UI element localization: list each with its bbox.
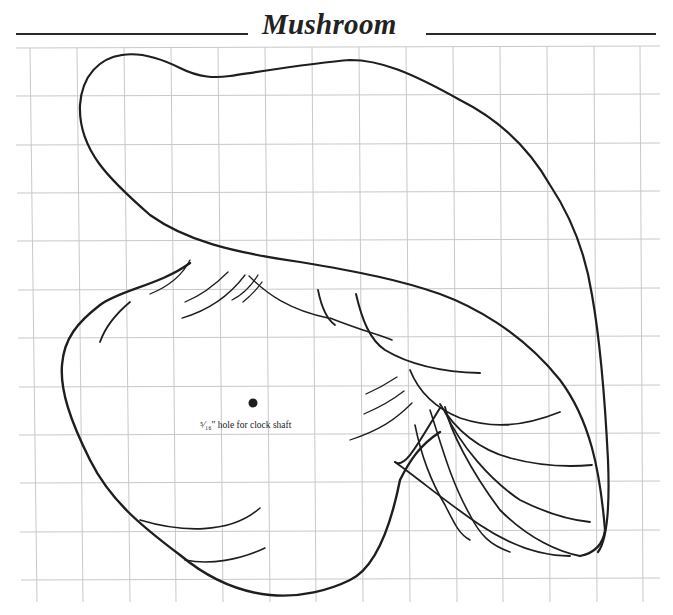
mushroom-outline <box>62 54 609 595</box>
clock-shaft-hole-marker <box>249 399 258 408</box>
grid <box>16 46 660 602</box>
hole-label: ⁵⁄₁₆" hole for clock shaft <box>200 420 291 430</box>
mushroom-pattern <box>0 0 673 615</box>
